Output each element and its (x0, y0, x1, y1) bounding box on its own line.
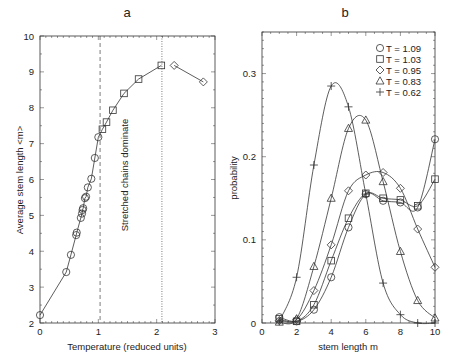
plus-marker (293, 273, 301, 281)
figure: a 01232345678910 Stretched chains domina… (0, 0, 452, 357)
legend-diamond-icon (376, 66, 384, 74)
panel-b-series (275, 82, 439, 327)
y-tick-label: 6 (29, 174, 34, 185)
legend-plus-icon (376, 88, 384, 96)
panel-a-annotation: Stretched chains dominate (119, 119, 130, 231)
y-tick-label: 0.2 (243, 151, 256, 162)
series-line (40, 65, 161, 315)
plus-marker (379, 279, 387, 287)
panel-b-tick-labels: 024681000.10.20.3 (243, 68, 441, 337)
panel-a-xlabel: Temperature (reduced units) (67, 341, 186, 352)
y-tick-label: 0.1 (243, 234, 256, 245)
series-curve (279, 171, 435, 322)
legend-triangle-icon (376, 77, 384, 84)
y-tick-label: 8 (29, 102, 34, 113)
x-tick-label: 6 (363, 326, 368, 337)
legend-circle-icon (376, 44, 383, 51)
x-tick-label: 1 (96, 326, 101, 337)
x-tick-label: 10 (430, 326, 441, 337)
y-tick-label: 10 (23, 31, 34, 42)
x-tick-label: 0 (37, 326, 42, 337)
series-curve (279, 139, 435, 321)
plus-marker (310, 161, 318, 169)
x-tick-label: 2 (154, 326, 159, 337)
x-tick-label: 8 (398, 326, 403, 337)
y-tick-label: 0 (251, 318, 256, 329)
y-tick-label: 4 (29, 246, 34, 257)
panel-a-threshold-lines (100, 36, 162, 323)
x-tick-label: 2 (294, 326, 299, 337)
y-tick-label: 3 (29, 282, 34, 293)
panel-a-chart: a 01232345678910 Stretched chains domina… (14, 5, 218, 352)
legend-label: T = 0.95 (386, 65, 421, 76)
panel-a-title: a (123, 5, 131, 20)
series-line (174, 65, 203, 82)
legend-square-icon (377, 56, 384, 63)
panel-a-ylabel: Average stem length <m> (14, 125, 25, 234)
panel-b-chart: b 024681000.10.20.3 T = 1.09T = 1.03T = … (228, 5, 440, 352)
panel-b-title: b (341, 5, 348, 20)
legend-label: T = 0.83 (386, 76, 421, 87)
legend-label: T = 0.62 (386, 87, 421, 98)
plus-marker (345, 103, 353, 111)
y-tick-label: 5 (29, 210, 34, 221)
panel-b-xlabel: stem length m (318, 341, 378, 352)
y-tick-label: 2 (29, 318, 34, 329)
y-tick-label: 7 (29, 138, 34, 149)
square-marker (158, 62, 165, 69)
legend-label: T = 1.09 (386, 43, 421, 54)
x-tick-label: 0 (259, 326, 264, 337)
y-tick-label: 0.3 (243, 68, 256, 79)
panel-b-legend: T = 1.09T = 1.03T = 0.95T = 0.83T = 0.62 (376, 43, 421, 98)
x-tick-label: 4 (329, 326, 334, 337)
panel-b-ylabel: probability (228, 156, 239, 200)
series-curve (279, 179, 435, 322)
x-tick-label: 3 (212, 326, 217, 337)
y-tick-label: 9 (29, 66, 34, 77)
legend-label: T = 1.03 (386, 54, 421, 65)
